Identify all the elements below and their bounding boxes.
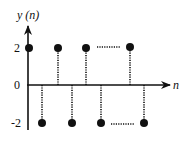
sample-point <box>68 119 76 127</box>
tick-label-0: 0 <box>14 78 20 92</box>
tick-label-neg2: -2 <box>11 116 21 130</box>
sample-point <box>82 44 90 52</box>
stem-plot: y (n) n 2 0 -2 <box>0 0 188 141</box>
positive-stems <box>58 48 130 85</box>
negative-stems <box>42 85 144 123</box>
sample-point <box>54 44 62 52</box>
sample-point <box>126 43 134 51</box>
sample-point <box>38 119 46 127</box>
x-axis-label: n <box>173 78 179 92</box>
sample-point <box>25 44 33 52</box>
sample-point <box>140 119 148 127</box>
sample-point <box>97 119 105 127</box>
tick-label-2: 2 <box>14 41 20 55</box>
y-axis-label: y (n) <box>16 8 39 22</box>
